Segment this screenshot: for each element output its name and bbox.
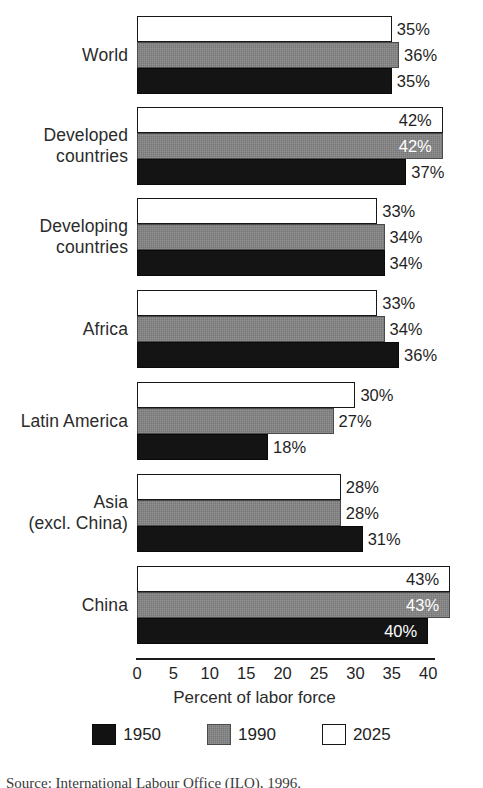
x-axis-title: Percent of labor force xyxy=(0,688,483,708)
legend-item-2025: 2025 xyxy=(322,724,391,745)
bar-value-label: 28% xyxy=(346,500,379,526)
bar-value-label: 43% xyxy=(406,592,439,618)
bar-value-label: 42% xyxy=(399,107,432,133)
bar-2025 xyxy=(137,474,341,500)
legend-label: 1990 xyxy=(238,725,276,745)
bar-group: 35%36%35% xyxy=(137,16,483,94)
bar-group: 33%34%34% xyxy=(137,198,483,276)
category-group: Developed countries42%42%37% xyxy=(0,107,483,185)
bar-1990 xyxy=(137,592,450,618)
x-tick-30: 30 xyxy=(335,663,375,683)
legend-label: 1950 xyxy=(123,725,161,745)
bar-value-label: 27% xyxy=(339,408,372,434)
category-group: World35%36%35% xyxy=(0,16,483,94)
category-group: Africa33%34%36% xyxy=(0,290,483,368)
bar-value-label: 36% xyxy=(404,342,437,368)
bar-value-label: 33% xyxy=(382,198,415,224)
bar-value-label: 40% xyxy=(384,618,417,644)
bar-value-label: 28% xyxy=(346,474,379,500)
x-tick-15: 15 xyxy=(226,663,266,683)
x-axis-line xyxy=(136,658,435,660)
bar-2025 xyxy=(137,290,377,316)
bar-1950 xyxy=(137,68,392,94)
category-label: Developed countries xyxy=(0,125,128,167)
category-label: Latin America xyxy=(0,411,128,432)
bar-2025 xyxy=(137,566,450,592)
bar-1990 xyxy=(137,133,443,159)
category-label: Developing countries xyxy=(0,216,128,258)
bar-2025 xyxy=(137,107,443,133)
gray-swatch xyxy=(207,724,231,745)
legend-item-1950: 1950 xyxy=(92,724,161,745)
bar-value-label: 42% xyxy=(399,133,432,159)
bar-2025 xyxy=(137,382,355,408)
x-tick-10: 10 xyxy=(190,663,230,683)
legend-label: 2025 xyxy=(353,725,391,745)
category-group: Latin America30%27%18% xyxy=(0,382,483,460)
bar-1990 xyxy=(137,408,334,434)
category-label: World xyxy=(0,45,128,66)
x-tick-25: 25 xyxy=(299,663,339,683)
bar-value-label: 37% xyxy=(411,159,444,185)
black-swatch xyxy=(92,724,116,745)
bar-value-label: 35% xyxy=(397,16,430,42)
x-tick-0: 0 xyxy=(117,663,157,683)
source-note: Source: International Labour Office (ILO… xyxy=(6,775,476,788)
bar-value-label: 31% xyxy=(368,526,401,552)
bar-value-label: 30% xyxy=(360,382,393,408)
bar-1950 xyxy=(137,434,268,460)
bar-value-label: 34% xyxy=(390,250,423,276)
bar-2025 xyxy=(137,198,377,224)
bar-value-label: 33% xyxy=(382,290,415,316)
category-group: China43%43%40% xyxy=(0,566,483,644)
labor-force-bar-chart: World35%36%35%Developed countries42%42%3… xyxy=(0,0,483,788)
bar-1990 xyxy=(137,316,385,342)
bar-value-label: 43% xyxy=(406,566,439,592)
bar-group: 42%42%37% xyxy=(137,107,483,185)
x-tick-35: 35 xyxy=(372,663,412,683)
bar-value-label: 35% xyxy=(397,68,430,94)
category-group: Asia (excl. China)28%28%31% xyxy=(0,474,483,552)
legend-item-1990: 1990 xyxy=(207,724,276,745)
bar-value-label: 18% xyxy=(273,434,306,460)
x-tick-5: 5 xyxy=(153,663,193,683)
category-group: Developing countries33%34%34% xyxy=(0,198,483,276)
bar-group: 33%34%36% xyxy=(137,290,483,368)
category-label: China xyxy=(0,595,128,616)
x-tick-20: 20 xyxy=(263,663,303,683)
category-label: Africa xyxy=(0,319,128,340)
bar-group: 43%43%40% xyxy=(137,566,483,644)
category-label: Asia (excl. China) xyxy=(0,492,128,534)
chart-legend: 195019902025 xyxy=(0,724,483,745)
bar-1950 xyxy=(137,526,363,552)
white-swatch xyxy=(322,724,346,745)
bar-value-label: 34% xyxy=(390,224,423,250)
bar-1990 xyxy=(137,42,399,68)
bar-1950 xyxy=(137,342,399,368)
bar-1950 xyxy=(137,159,406,185)
bar-1950 xyxy=(137,250,385,276)
bar-group: 28%28%31% xyxy=(137,474,483,552)
bar-value-label: 36% xyxy=(404,42,437,68)
bar-1990 xyxy=(137,224,385,250)
bar-value-label: 34% xyxy=(390,316,423,342)
bar-group: 30%27%18% xyxy=(137,382,483,460)
bar-2025 xyxy=(137,16,392,42)
x-tick-40: 40 xyxy=(408,663,448,683)
bar-1990 xyxy=(137,500,341,526)
